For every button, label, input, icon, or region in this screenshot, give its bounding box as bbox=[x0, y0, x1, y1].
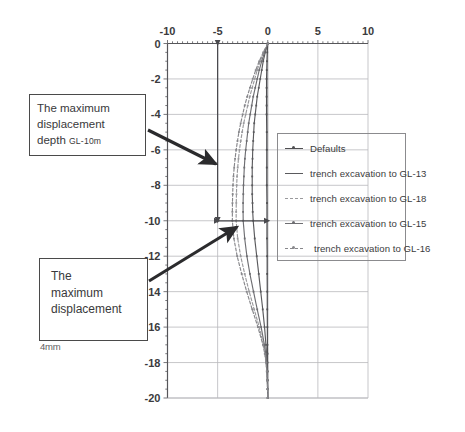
annotation-arrow-1 bbox=[148, 130, 216, 164]
annotation-arrow-2 bbox=[149, 227, 237, 281]
annotation-arrows bbox=[0, 0, 465, 432]
figure-canvas: -10-50510 0-2-4-6-8-10-12-14-16-18-20 De… bbox=[0, 0, 465, 432]
